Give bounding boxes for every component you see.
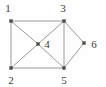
- graph-edge-4-5: [38, 44, 64, 68]
- graph-canvas: [0, 0, 106, 87]
- graph-node-label-4: 4: [44, 39, 50, 50]
- graph-node-6: [82, 41, 85, 44]
- graph-edge-1-4: [11, 21, 38, 44]
- graph-node-2: [9, 66, 12, 69]
- graph-node-5: [62, 66, 65, 69]
- graph-node-1: [9, 19, 12, 22]
- graph-node-label-2: 2: [8, 75, 14, 86]
- graph-edge-3-6: [64, 21, 84, 43]
- graph-node-label-3: 3: [60, 3, 66, 14]
- graph-edge-3-4: [38, 21, 64, 44]
- graph-node-label-1: 1: [5, 3, 11, 14]
- graph-node-3: [62, 19, 65, 22]
- graph-edge-5-6: [64, 43, 84, 68]
- graph-node-label-6: 6: [91, 39, 97, 50]
- graph-edge-2-4: [11, 44, 38, 68]
- graph-node-label-5: 5: [61, 75, 67, 86]
- graph-figure: 123456: [0, 0, 106, 87]
- graph-node-4: [36, 42, 39, 45]
